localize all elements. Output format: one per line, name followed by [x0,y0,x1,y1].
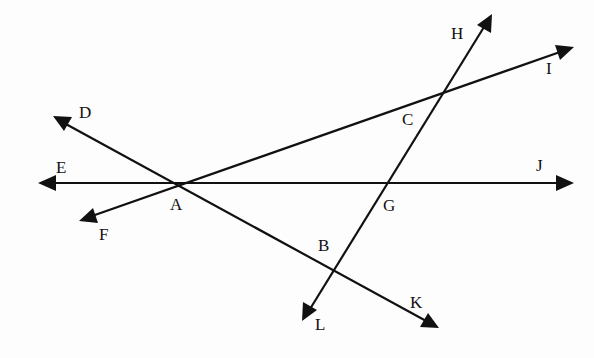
label-i: I [546,59,552,78]
label-g: G [383,196,395,215]
label-d: D [79,103,91,122]
label-e: E [56,158,66,177]
arrowhead-f-icon [79,208,98,223]
label-b: B [318,236,329,255]
label-j: J [536,156,543,175]
diagram-svg: A B C D E F G H I J K L [0,0,594,358]
label-f: F [99,225,108,244]
label-l: L [315,315,325,334]
line-fi [79,45,574,223]
arrowhead-d-icon [53,116,72,131]
arrowhead-e-icon [38,175,56,191]
arrowhead-i-icon [555,45,574,60]
arrowhead-h-icon [477,14,492,33]
arrowhead-j-icon [556,175,574,191]
label-k: K [410,293,423,312]
line-dk [53,116,439,328]
arrowhead-k-icon [420,313,439,328]
geometry-diagram: A B C D E F G H I J K L [0,0,594,358]
line-ej [38,175,574,191]
line-hl [302,14,492,321]
label-h: H [451,24,463,43]
label-a: A [170,195,183,214]
label-c: C [402,110,413,129]
